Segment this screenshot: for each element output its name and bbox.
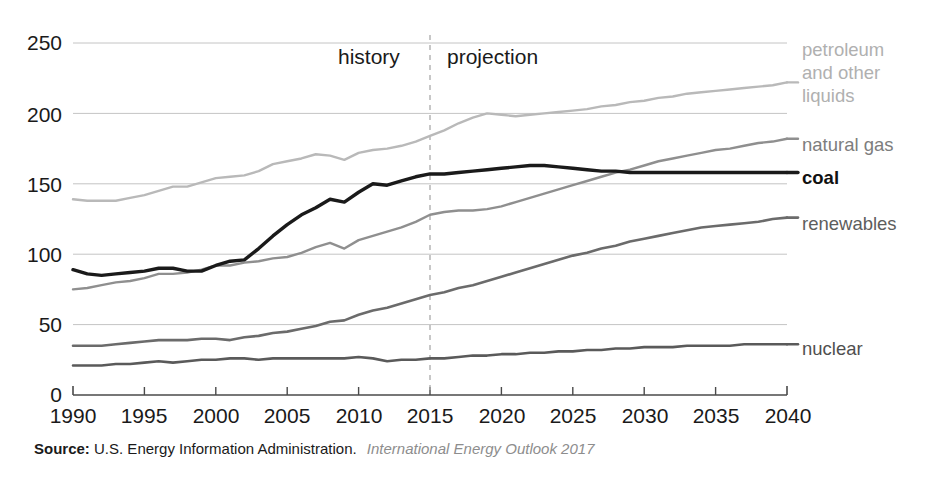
xtick-label-2025: 2025 xyxy=(536,404,610,428)
xtick-label-2035: 2035 xyxy=(679,404,753,428)
ytick-label-250: 250 xyxy=(6,31,62,55)
xtick-label-2015: 2015 xyxy=(393,404,467,428)
energy-consumption-chart-figure: 250 200 150 100 50 0 1990 1995 2000 2005… xyxy=(0,0,930,485)
series-label-renewables: renewables xyxy=(802,212,897,235)
xtick-label-2010: 2010 xyxy=(322,404,396,428)
series-label-petroleum-line1: petroleum xyxy=(802,38,922,61)
source-label: Source: xyxy=(34,440,90,457)
ytick-label-100: 100 xyxy=(6,243,62,267)
annotation-projection: projection xyxy=(447,45,538,69)
source-publication: International Energy Outlook 2017 xyxy=(367,440,595,457)
xtick-label-2020: 2020 xyxy=(465,404,539,428)
legend-line-stubs xyxy=(787,82,798,344)
xtick-label-2040: 2040 xyxy=(751,404,825,428)
series-label-petroleum-line3: liquids xyxy=(802,84,922,107)
annotation-history: history xyxy=(338,45,400,69)
series-label-petroleum: petroleum and other liquids xyxy=(802,38,922,107)
xtick-label-2030: 2030 xyxy=(608,404,682,428)
xtick-label-1995: 1995 xyxy=(107,404,181,428)
source-organization: U.S. Energy Information Administration. xyxy=(94,440,357,457)
ytick-label-50: 50 xyxy=(6,313,62,337)
source-note: Source: U.S. Energy Information Administ… xyxy=(34,440,594,457)
series-label-natural-gas: natural gas xyxy=(802,133,894,156)
xtick-label-1990: 1990 xyxy=(36,404,110,428)
series-label-nuclear: nuclear xyxy=(802,337,863,360)
series-label-petroleum-line2: and other xyxy=(802,61,922,84)
series-label-coal: coal xyxy=(802,166,839,189)
xtick-label-2005: 2005 xyxy=(250,404,324,428)
xtick-label-2000: 2000 xyxy=(179,404,253,428)
data-series xyxy=(73,82,787,365)
ytick-label-150: 150 xyxy=(6,173,62,197)
ytick-label-200: 200 xyxy=(6,103,62,127)
